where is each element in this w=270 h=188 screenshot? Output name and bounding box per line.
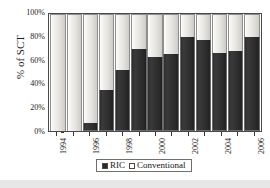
- bar-segment-conventional[interactable]: [99, 14, 114, 90]
- legend-item-conventional: Conventional: [129, 161, 186, 170]
- x-axis-tick-labels: 1994199619982000200220042006: [48, 136, 262, 158]
- x-axis-tick-label: 1994: [60, 138, 68, 168]
- bar-column[interactable]: [83, 14, 98, 131]
- bar-column[interactable]: [163, 14, 178, 131]
- bar-segment-conventional[interactable]: [50, 14, 65, 131]
- bar-segment-ric[interactable]: [180, 37, 195, 131]
- chart-figure: % of SCT 100%80%60%40%20%0% 199419961998…: [0, 0, 270, 180]
- bar-column[interactable]: [212, 14, 227, 131]
- y-axis-tick-label: 80%: [30, 33, 45, 41]
- bar-segment-ric[interactable]: [99, 90, 114, 131]
- bar-segment-conventional[interactable]: [228, 14, 243, 51]
- x-axis-tick-label: 2006: [258, 138, 266, 168]
- bar-segment-ric[interactable]: [212, 53, 227, 131]
- bar-column[interactable]: [147, 14, 162, 131]
- bar-segment-conventional[interactable]: [196, 14, 211, 40]
- y-axis-tick-labels: 100%80%60%40%20%0%: [16, 8, 45, 138]
- x-axis-tick-label: 2004: [225, 138, 233, 168]
- bar-segment-ric[interactable]: [196, 40, 211, 131]
- bar-column[interactable]: [180, 14, 195, 131]
- bar-series-container: [49, 14, 261, 131]
- bar-segment-ric[interactable]: [115, 70, 130, 131]
- bar-column[interactable]: [131, 14, 146, 131]
- x-axis-tick-label: 2002: [192, 138, 200, 168]
- bar-segment-conventional[interactable]: [131, 14, 146, 49]
- bar-segment-ric[interactable]: [228, 51, 243, 131]
- bar-segment-conventional[interactable]: [115, 14, 130, 70]
- bar-column[interactable]: [67, 14, 82, 131]
- y-axis-tick-label: 100%: [26, 9, 45, 17]
- plot-area: [48, 13, 262, 132]
- bar-segment-conventional[interactable]: [180, 14, 195, 37]
- bar-segment-conventional[interactable]: [67, 14, 82, 131]
- bar-segment-ric[interactable]: [83, 123, 98, 131]
- y-axis-tick-label: 20%: [30, 104, 45, 112]
- bar-segment-conventional[interactable]: [147, 14, 162, 57]
- chart-legend: RIC Conventional: [96, 159, 192, 172]
- legend-label-ric: RIC: [110, 161, 125, 170]
- bar-segment-ric[interactable]: [163, 54, 178, 131]
- bar-segment-conventional[interactable]: [163, 14, 178, 54]
- bar-segment-conventional[interactable]: [83, 14, 98, 123]
- y-axis-tick-label: 0%: [34, 128, 45, 136]
- bar-column[interactable]: [228, 14, 243, 131]
- legend-label-conventional: Conventional: [137, 161, 186, 170]
- bar-segment-conventional[interactable]: [244, 14, 259, 37]
- y-axis-tick-label: 60%: [30, 57, 45, 65]
- y-axis-tick-label: 40%: [30, 80, 45, 88]
- bar-segment-ric[interactable]: [147, 57, 162, 131]
- filled-square-icon: [102, 163, 108, 169]
- bar-column[interactable]: [50, 14, 65, 131]
- bar-segment-ric[interactable]: [244, 37, 259, 131]
- legend-item-ric: RIC: [102, 161, 125, 170]
- bar-segment-ric[interactable]: [131, 49, 146, 131]
- bar-column[interactable]: [196, 14, 211, 131]
- bar-column[interactable]: [115, 14, 130, 131]
- empty-square-icon: [129, 163, 135, 169]
- page-bottom-strip: [0, 180, 270, 188]
- bar-segment-conventional[interactable]: [212, 14, 227, 53]
- bar-column[interactable]: [99, 14, 114, 131]
- bar-column[interactable]: [244, 14, 259, 131]
